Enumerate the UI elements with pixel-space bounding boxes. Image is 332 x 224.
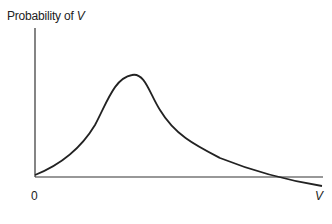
- distribution-curve: [35, 75, 322, 186]
- y-axis-label: Probability of V: [7, 9, 85, 23]
- origin-label: 0: [31, 189, 38, 203]
- chart-canvas: [0, 0, 332, 224]
- x-axis-label: V: [315, 189, 323, 203]
